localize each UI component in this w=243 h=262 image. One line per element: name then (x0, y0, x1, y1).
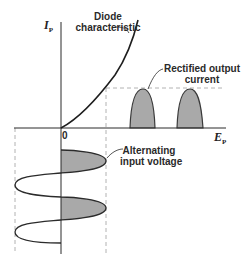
rectified-leader (148, 69, 163, 89)
diagram-canvas (0, 0, 243, 262)
y-axis-subscript: P (49, 26, 53, 34)
diode-characteristic-label: Diode characteristic (73, 11, 143, 33)
diode-label-line2: characteristic (73, 22, 143, 33)
x-axis-subscript: P (222, 138, 226, 146)
pulse-2 (177, 89, 203, 128)
alternating-label-line2: input voltage (120, 156, 178, 167)
alternating-input-label: Alternating input voltage (120, 145, 178, 167)
diode-label-line1: Diode (73, 11, 143, 22)
input-positive-lobes (61, 150, 106, 220)
alternating-label-line1: Alternating (120, 145, 178, 156)
rectified-output-label: Rectified output current (163, 63, 241, 85)
leader-lines (107, 27, 163, 158)
rectified-label-line1: Rectified output (163, 63, 241, 74)
pulse-1 (130, 89, 155, 128)
x-axis-symbol: E (214, 130, 222, 144)
diode-characteristic-curve (61, 20, 138, 128)
rectified-output-pulses (130, 89, 203, 128)
rectified-label-line2: current (163, 74, 241, 85)
x-axis-label: EP (214, 130, 226, 146)
y-axis-label: IP (44, 18, 53, 34)
origin-label: 0 (62, 130, 68, 141)
axes (14, 22, 226, 254)
